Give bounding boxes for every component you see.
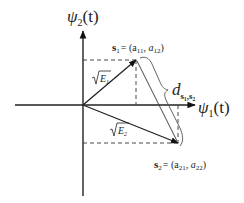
sqrt-e2-label: E2 [110, 123, 129, 137]
svg-text:E2: E2 [117, 125, 127, 137]
projection-lines [83, 60, 178, 143]
psi2-axis-label: ψ2(t) [67, 7, 99, 28]
vector-s2 [83, 105, 178, 143]
s1-label: s1= (a11, a12) [112, 41, 164, 55]
vector-s1 [83, 60, 136, 105]
distance-label: ds₁,s₂ [172, 80, 195, 101]
signal-space-diagram: ψ2(t) ψ1(t) s1= (a11, a12) s2= (a21, a22… [0, 0, 244, 203]
psi1-axis-label: ψ1(t) [198, 98, 230, 119]
s2-label: s2= (a21, a22) [154, 158, 206, 172]
distance-brace [140, 57, 183, 146]
sqrt-e1-label: E1 [92, 71, 111, 85]
svg-text:E1: E1 [99, 73, 109, 85]
